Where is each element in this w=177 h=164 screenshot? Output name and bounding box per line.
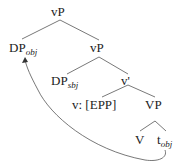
node-trace: tobj xyxy=(157,133,172,146)
node-label: DP xyxy=(9,40,26,55)
node-VP: VP xyxy=(145,98,162,111)
node-dp-obj: DPobj xyxy=(9,41,37,54)
node-label: V xyxy=(135,132,144,147)
tree-edges xyxy=(0,0,177,164)
node-label: v: [EPP] xyxy=(72,97,116,112)
node-subscript: obj xyxy=(26,47,38,57)
node-label: VP xyxy=(145,97,162,112)
node-label: DP xyxy=(51,73,68,88)
node-v-head: v: [EPP] xyxy=(72,98,116,111)
node-label: vP xyxy=(90,40,104,55)
node-root-vp: vP xyxy=(51,5,65,18)
arrow-head-icon xyxy=(22,57,28,63)
node-label: v' xyxy=(121,73,130,88)
node-subscript: obj xyxy=(161,139,173,149)
node-V: V xyxy=(135,133,144,146)
node-subscript: sbj xyxy=(68,80,79,90)
node-v-bar: v' xyxy=(121,74,130,87)
node-label: vP xyxy=(51,4,65,19)
node-inner-vp: vP xyxy=(90,41,104,54)
node-dp-subj: DPsbj xyxy=(51,74,78,87)
